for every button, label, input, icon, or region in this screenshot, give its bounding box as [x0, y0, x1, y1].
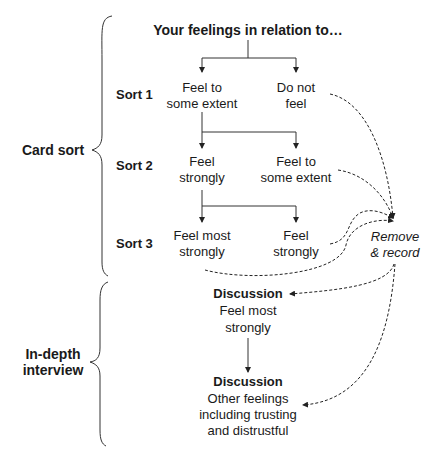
remove-record-line1: Remove	[360, 229, 430, 245]
sort3-left-line2: strongly	[162, 244, 242, 260]
discussion2-line1: Other feelings	[188, 391, 308, 407]
sort1-right-line1: Do not	[256, 80, 336, 96]
discussion1-heading: Discussion	[198, 286, 298, 302]
discussion2-line3: and distrustful	[188, 423, 308, 439]
sort1-left-line1: Feel to	[162, 80, 242, 96]
sort1-left-line2: some extent	[162, 96, 242, 112]
sort3-label: Sort 3	[116, 236, 153, 252]
discussion2-heading: Discussion	[188, 374, 308, 390]
card-sort-label: Card sort	[18, 142, 88, 158]
sort3-right-line1: Feel	[256, 228, 336, 244]
sort2-left-line1: Feel	[162, 154, 242, 170]
sort2-right-line2: some extent	[256, 170, 336, 186]
discussion1-line1: Feel most	[198, 303, 298, 319]
sort3-right-line2: strongly	[256, 244, 336, 260]
sort3-left-line1: Feel most	[162, 228, 242, 244]
interview-label-line1: In-depth	[16, 346, 90, 362]
remove-record-line2: & record	[360, 245, 430, 261]
discussion1-line2: strongly	[198, 320, 298, 336]
discussion2-line2: including trusting	[188, 407, 308, 423]
sort2-left-line2: strongly	[162, 170, 242, 186]
sort2-label: Sort 2	[116, 158, 153, 174]
sort1-label: Sort 1	[116, 87, 153, 103]
card-sort-brace	[92, 16, 112, 276]
interview-label-line2: interview	[16, 362, 90, 378]
interview-brace	[90, 282, 108, 446]
diagram-title: Your feelings in relation to…	[148, 22, 348, 38]
sort2-right-line1: Feel to	[256, 154, 336, 170]
sort1-right-line2: feel	[256, 96, 336, 112]
